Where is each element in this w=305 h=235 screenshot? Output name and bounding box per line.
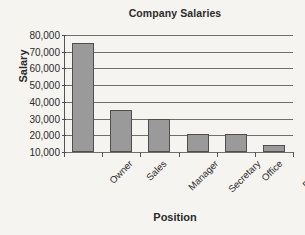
x-tick-mark: [179, 152, 180, 157]
y-tick-label: 80,000: [8, 30, 60, 41]
y-tick-mark: [62, 85, 66, 86]
y-tick-mark: [62, 135, 66, 136]
bar[interactable]: [263, 145, 285, 152]
plot-area: [64, 35, 293, 152]
chart-title: Company Salaries: [60, 7, 290, 19]
x-category-label: Owner: [107, 158, 135, 186]
y-tick-mark: [62, 52, 66, 53]
y-tick-label: 60,000: [8, 63, 60, 74]
x-tick-mark: [217, 152, 218, 157]
bar[interactable]: [225, 134, 247, 152]
y-tick-label: 50,000: [8, 80, 60, 91]
y-tick-mark: [62, 68, 66, 69]
y-tick-mark: [62, 119, 66, 120]
x-tick-mark: [102, 152, 103, 157]
bar-chart: Company Salaries Salary Position 10,0002…: [0, 0, 305, 235]
bars-group: [64, 35, 293, 152]
x-category-label: Office: [259, 158, 284, 183]
y-tick-label: 20,000: [8, 130, 60, 141]
y-tick-label: 30,000: [8, 113, 60, 124]
bar-slot: [217, 35, 255, 152]
bar-slot: [179, 35, 217, 152]
bar[interactable]: [110, 110, 132, 152]
x-axis-title: Position: [60, 211, 290, 223]
bar-slot: [102, 35, 140, 152]
x-category-label: Secretary: [226, 158, 263, 195]
x-tick-mark: [140, 152, 141, 157]
x-category-label: Manager: [186, 158, 220, 192]
y-tick-mark: [62, 102, 66, 103]
y-tick-mark: [62, 35, 66, 36]
x-tick-mark: [255, 152, 256, 157]
bar-slot: [140, 35, 178, 152]
bar[interactable]: [187, 134, 209, 152]
x-tick-mark: [293, 152, 294, 157]
y-tick-label: 10,000: [8, 147, 60, 158]
bar-slot: [255, 35, 293, 152]
bar[interactable]: [148, 119, 170, 152]
x-tick-mark: [64, 152, 65, 157]
x-category-label: Delivery: [300, 158, 305, 190]
bar-slot: [64, 35, 102, 152]
x-category-label: Sales: [144, 158, 169, 183]
y-tick-label: 70,000: [8, 46, 60, 57]
y-tick-label: 40,000: [8, 96, 60, 107]
bar[interactable]: [72, 43, 94, 152]
